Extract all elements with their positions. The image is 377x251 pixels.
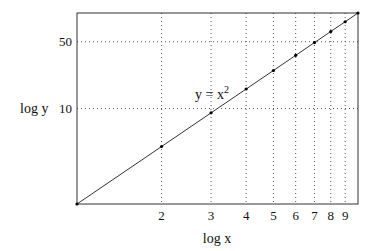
x-tick-labels: 23456789 <box>158 208 348 223</box>
data-point <box>160 145 163 148</box>
x-axis-label: log x <box>203 231 231 246</box>
y-tick-label: 10 <box>59 101 72 116</box>
x-tick-label: 6 <box>292 208 299 223</box>
data-point <box>313 41 316 44</box>
x-tick-label: 8 <box>328 208 335 223</box>
data-point <box>294 54 297 57</box>
data-point <box>329 30 332 33</box>
y-tick-labels: 1050 <box>59 34 72 116</box>
data-point <box>344 20 347 23</box>
loglog-chart: 23456789 1050 log x log y y = x2 <box>0 0 377 251</box>
data-point <box>209 111 212 114</box>
annotation-superscript: 2 <box>224 84 229 95</box>
y-axis-label: log y <box>20 101 48 116</box>
x-tick-label: 2 <box>158 208 165 223</box>
x-tick-label: 4 <box>243 208 250 223</box>
x-tick-label: 5 <box>270 208 277 223</box>
data-point <box>245 87 248 90</box>
data-point <box>272 69 275 72</box>
annotation-base: y = x <box>195 87 224 102</box>
x-tick-label: 7 <box>311 208 318 223</box>
data-point <box>356 11 359 14</box>
series-y-equals-x-squared <box>75 11 359 205</box>
curve-annotation: y = x2 <box>195 84 229 102</box>
data-point <box>75 202 78 205</box>
x-tick-label: 3 <box>208 208 215 223</box>
y-tick-label: 50 <box>59 34 72 49</box>
x-tick-label: 9 <box>342 208 349 223</box>
